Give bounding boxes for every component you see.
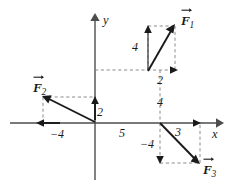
f1-vector-shaft: [148, 30, 172, 71]
tick-label-f1-base-height: 4: [157, 96, 163, 108]
vector-label-f3: F3: [203, 161, 216, 180]
tick-label-f1-rise: 4: [132, 41, 138, 53]
vector-label-f2: F2: [33, 79, 46, 98]
y-axis-label: y: [103, 14, 109, 27]
x-negfour-tick-arrowhead: [36, 119, 44, 126]
f2-vector-group: [42, 95, 95, 122]
tick-label-f3-run: 3: [175, 126, 181, 138]
f2-dashed-construction: [36, 96, 99, 127]
tick-label-f3-drop: −4: [140, 138, 154, 150]
f2-vector-shaft: [49, 99, 95, 122]
tick-label-x-five: 5: [119, 127, 125, 139]
y-axis-arrowhead: [90, 13, 99, 21]
vector-label-f2-symbol: F: [33, 80, 42, 95]
vector-label-f2-subscript: 2: [42, 87, 47, 97]
vector-label-f1: F1: [181, 12, 194, 31]
vector-label-f1-symbol: F: [181, 13, 190, 28]
force-vector-diagram: y x 2 −4 5 4 2 4 3 −4 F1 F2 F3: [0, 0, 229, 184]
vector-label-f1-subscript: 1: [190, 20, 195, 30]
vector-label-f3-symbol: F: [203, 162, 212, 177]
tick-label-y-two: 2: [97, 106, 103, 118]
f1-run-tick-arrowhead: [170, 66, 178, 73]
x-axis-label: x: [212, 128, 218, 141]
vector-label-f3-subscript: 3: [212, 169, 217, 179]
f1-vector-group: [148, 24, 175, 71]
tick-label-f1-run: 2: [157, 74, 163, 86]
tick-label-x-negative-four: −4: [50, 128, 64, 140]
